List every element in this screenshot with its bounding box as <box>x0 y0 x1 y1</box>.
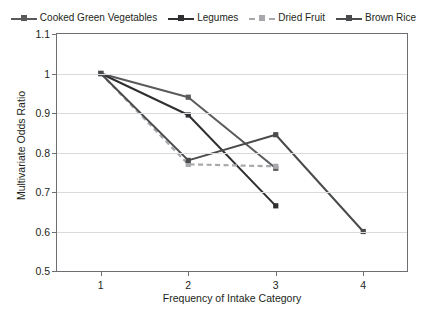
gridline-0.8 <box>57 153 407 154</box>
y-axis-title: Multivariate Odds Ratio <box>16 66 27 226</box>
line-chart: Cooked Green Vegetables Legumes Dried Fr… <box>0 0 427 316</box>
x-tick-label-2: 2 <box>173 280 203 291</box>
x-tick-mark-4 <box>363 271 364 276</box>
gridline-0.6 <box>57 232 407 233</box>
y-tick-label-1.1: 1.1 <box>12 29 50 40</box>
gridline-0.9 <box>57 113 407 114</box>
y-tick-label-0.6: 0.6 <box>12 227 50 238</box>
gridline-0.7 <box>57 192 407 193</box>
x-tick-label-3: 3 <box>261 280 291 291</box>
plot-area <box>56 33 408 272</box>
y-tick-label-0.5: 0.5 <box>12 266 50 277</box>
x-axis-title: Frequency of Intake Category <box>56 293 408 304</box>
x-tick-mark-2 <box>188 271 189 276</box>
gridline-1 <box>57 74 407 75</box>
gridlines <box>57 34 407 271</box>
x-tick-mark-1 <box>101 271 102 276</box>
x-tick-label-1: 1 <box>86 280 116 291</box>
x-tick-mark-3 <box>276 271 277 276</box>
x-tick-label-4: 4 <box>348 280 378 291</box>
